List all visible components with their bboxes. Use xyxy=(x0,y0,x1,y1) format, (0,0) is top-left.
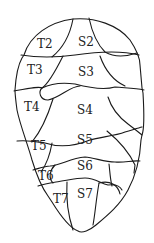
abdomen-segments-diagram: T2 S2 T3 S3 T4 S4 T5 S5 T6 S6 T7 S7 xyxy=(0,0,154,243)
label-T3: T3 xyxy=(27,63,43,77)
label-T7: T7 xyxy=(53,192,69,206)
label-T6: T6 xyxy=(38,169,54,183)
label-T5: T5 xyxy=(31,139,47,153)
label-S6: S6 xyxy=(77,159,93,173)
label-S2: S2 xyxy=(78,35,94,49)
label-S3: S3 xyxy=(78,65,94,79)
label-T2: T2 xyxy=(37,37,53,51)
label-S7: S7 xyxy=(77,187,93,201)
label-S5: S5 xyxy=(77,133,93,147)
label-S4: S4 xyxy=(77,103,93,117)
label-T4: T4 xyxy=(24,100,40,114)
segment-labels: T2 S2 T3 S3 T4 S4 T5 S5 T6 S6 T7 S7 xyxy=(24,35,94,206)
